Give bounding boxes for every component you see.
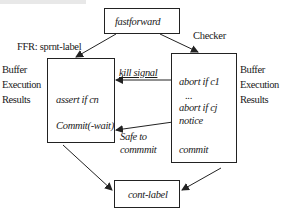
- ffr-line-commit: Commit(-wait): [56, 119, 114, 132]
- ffr-title: FFR: sprnt-label: [17, 40, 81, 53]
- safe-to-commit-label: Safe to commmit: [120, 130, 156, 156]
- cont-label-text: cont-label: [128, 188, 168, 201]
- ffr-line-assert: assert if cn: [56, 93, 98, 106]
- checker-title: Checker: [193, 29, 226, 42]
- edge-ffr-to-cont-label: [63, 145, 112, 190]
- edge-fastforward-to-ffr: [76, 34, 116, 57]
- checker-node: abort if c1 ... abort if cj notice commi…: [171, 53, 237, 163]
- checker-line-abort-cj: abort if cj: [179, 101, 217, 114]
- checker-line-commit: commit: [179, 143, 208, 156]
- ffr-side-label: Buffer Execution Results: [2, 62, 41, 107]
- fastforward-node: fastforward: [104, 8, 180, 34]
- kill-signal-label: kill signal: [119, 66, 157, 79]
- checker-line-abort-c1: abort if c1: [179, 75, 219, 88]
- cont-label-node: cont-label: [114, 180, 180, 208]
- checker-side-label: Buffer Execution Results: [240, 62, 279, 107]
- edge-safe-to-commit: [116, 122, 173, 130]
- checker-line-notice: notice: [179, 114, 203, 127]
- fastforward-label: fastforward: [115, 15, 160, 28]
- ffr-node: assert if cn Commit(-wait): [47, 58, 115, 143]
- edge-checker-to-cont-label: [182, 168, 221, 190]
